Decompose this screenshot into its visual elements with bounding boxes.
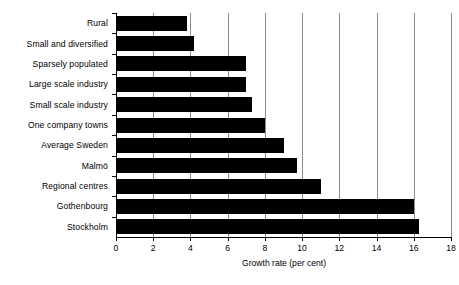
category-label: Rural <box>0 18 108 28</box>
category-label: Sparsely populated <box>0 59 108 69</box>
category-label: One company towns <box>0 120 108 130</box>
plot-area <box>116 13 451 237</box>
x-axis-tick-label: 14 <box>365 243 389 254</box>
x-axis-tick-label: 12 <box>327 243 351 254</box>
category-label: Average Sweden <box>0 140 108 150</box>
y-axis-tick <box>112 94 116 95</box>
x-axis-tick <box>228 237 229 241</box>
category-label: Regional centres <box>0 181 108 191</box>
y-axis-line <box>116 13 117 238</box>
x-axis-tick <box>153 237 154 241</box>
x-axis-tick-label: 8 <box>253 243 277 254</box>
bar <box>116 158 297 173</box>
category-label: Malmö <box>0 161 108 171</box>
x-axis-tick <box>116 237 117 241</box>
gridline-18 <box>451 13 452 237</box>
category-axis-labels: RuralSmall and diversifiedSparsely popul… <box>0 13 112 237</box>
x-axis-tick <box>451 237 452 241</box>
x-axis-tick <box>377 237 378 241</box>
x-axis-tick-label: 16 <box>402 243 426 254</box>
bar <box>116 36 194 51</box>
x-axis-tick <box>302 237 303 241</box>
x-axis-tick-label: 10 <box>290 243 314 254</box>
bar <box>116 179 321 194</box>
category-label: Small and diversified <box>0 39 108 49</box>
category-label: Large scale industry <box>0 79 108 89</box>
bar-chart: RuralSmall and diversifiedSparsely popul… <box>0 0 459 285</box>
category-label: Small scale industry <box>0 100 108 110</box>
x-axis-title: Growth rate (per cent) <box>116 258 452 268</box>
bar <box>116 77 246 92</box>
y-axis-tick <box>112 217 116 218</box>
y-axis-tick <box>112 54 116 55</box>
bar <box>116 56 246 71</box>
bar <box>116 219 419 234</box>
bar <box>116 118 265 133</box>
x-axis-tick <box>265 237 266 241</box>
x-axis-tick-label: 4 <box>178 243 202 254</box>
x-axis-tick <box>190 237 191 241</box>
bar <box>116 16 187 31</box>
x-axis-tick-label: 6 <box>216 243 240 254</box>
x-axis-tick-label: 0 <box>104 243 128 254</box>
y-axis-tick <box>112 176 116 177</box>
x-axis-tick-label: 2 <box>141 243 165 254</box>
bar <box>116 138 284 153</box>
y-axis-tick <box>112 33 116 34</box>
y-axis-tick <box>112 13 116 14</box>
category-label: Gothenbourg <box>0 201 108 211</box>
bar <box>116 199 414 214</box>
gridline-16 <box>414 13 415 237</box>
x-axis-tick <box>339 237 340 241</box>
bar <box>116 97 252 112</box>
y-axis-tick <box>112 135 116 136</box>
y-axis-tick <box>112 156 116 157</box>
category-label: Stockholm <box>0 222 108 232</box>
y-axis-tick <box>112 196 116 197</box>
x-axis-tick <box>414 237 415 241</box>
y-axis-tick <box>112 115 116 116</box>
y-axis-tick <box>112 74 116 75</box>
x-axis-tick-label: 18 <box>439 243 459 254</box>
x-axis-line <box>116 237 452 238</box>
